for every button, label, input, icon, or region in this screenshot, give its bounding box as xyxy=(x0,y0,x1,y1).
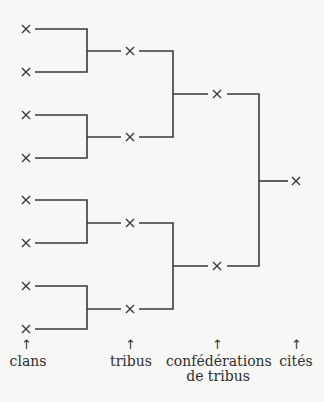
label-confederations-line2: de tribus xyxy=(166,369,270,384)
tribe-bracket-1 xyxy=(139,51,173,137)
tribe-bracket-2 xyxy=(139,223,173,309)
arrow-up-icon: ↑ xyxy=(212,338,223,351)
clan-bracket-1 xyxy=(35,29,87,72)
label-confederations: confédérations de tribus xyxy=(166,354,270,384)
clan-bracket-3 xyxy=(35,200,87,243)
arrow-up-icon: ↑ xyxy=(291,338,302,351)
clan-bracket-2 xyxy=(35,115,87,158)
clan-bracket-4 xyxy=(35,286,87,329)
label-tribus: tribus xyxy=(106,354,156,369)
arrow-up-icon: ↑ xyxy=(125,338,136,351)
arrow-up-icon: ↑ xyxy=(21,338,32,351)
confederation-bracket xyxy=(227,94,259,266)
label-clans: clans xyxy=(8,354,48,369)
label-cites: cités xyxy=(276,354,316,369)
tree-diagram xyxy=(0,0,324,402)
label-confederations-line1: confédérations xyxy=(166,354,270,369)
